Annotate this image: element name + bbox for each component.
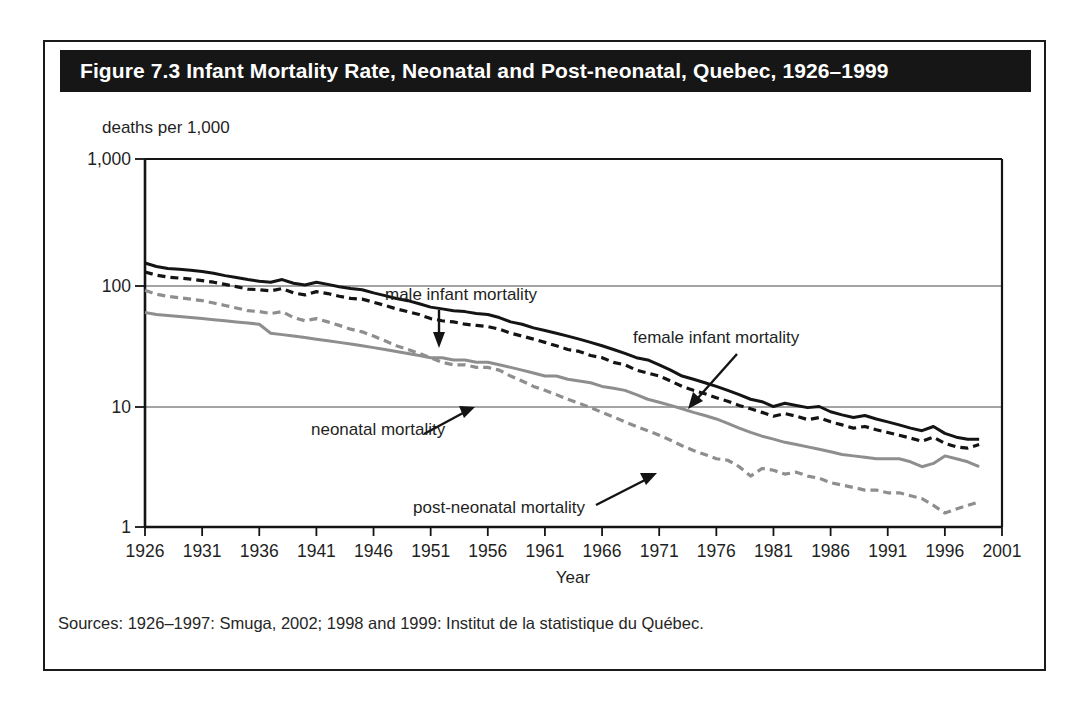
annotation-post-neonatal-mortality: post-neonatal mortality (413, 498, 585, 517)
infant-mortality-chart: deaths per 1,000 1,000 100 10 1 19261931… (45, 42, 1044, 669)
source-note: Sources: 1926–1997: Smuga, 2002; 1998 an… (58, 614, 704, 633)
x-tick-label: 1946 (354, 541, 393, 561)
x-tick-label: 1996 (925, 541, 964, 561)
series-line-female-infant-mortality (145, 272, 979, 448)
series-line-post-neonatal-mortality (145, 290, 979, 513)
x-tick-label: 1981 (754, 541, 793, 561)
x-tick-label: 1956 (468, 541, 507, 561)
ytick-label-10: 10 (112, 397, 132, 417)
arrow-head-postneonatal (640, 473, 657, 485)
ytick-label-1000: 1,000 (87, 149, 131, 169)
x-tick-label: 1976 (697, 541, 736, 561)
ytick-label-1: 1 (121, 517, 131, 537)
ytick-label-100: 100 (102, 276, 131, 296)
x-tick-label: 1986 (811, 541, 850, 561)
arrow-head-male (433, 332, 445, 348)
x-tick-label: 2001 (983, 541, 1022, 561)
data-series-layer (145, 263, 979, 513)
annotation-female-infant-mortality: female infant mortality (633, 328, 800, 347)
figure-frame: Figure 7.3 Infant Mortality Rate, Neonat… (43, 40, 1046, 671)
x-tick-label: 1991 (868, 541, 907, 561)
x-tick-labels: 1926193119361941194619511956196119661971… (126, 541, 1022, 561)
series-line-male-infant-mortality (145, 263, 979, 439)
annotation-male-infant-mortality: male infant mortality (385, 285, 538, 304)
x-tick-label: 1926 (126, 541, 165, 561)
x-tick-label: 1931 (183, 541, 222, 561)
y-axis-label: deaths per 1,000 (102, 118, 230, 137)
arrow-line-postneonatal (596, 480, 645, 505)
x-tick-marks (145, 527, 1002, 536)
x-tick-label: 1971 (640, 541, 679, 561)
x-tick-label: 1941 (297, 541, 336, 561)
arrow-head-neonatal (459, 406, 475, 418)
figure-page: Figure 7.3 Infant Mortality Rate, Neonat… (0, 0, 1088, 717)
x-tick-label: 1951 (411, 541, 450, 561)
x-tick-label: 1961 (525, 541, 564, 561)
x-tick-label: 1936 (240, 541, 279, 561)
annotation-neonatal-mortality: neonatal mortality (311, 420, 446, 439)
x-tick-label: 1966 (583, 541, 622, 561)
x-axis-label: Year (556, 568, 591, 587)
